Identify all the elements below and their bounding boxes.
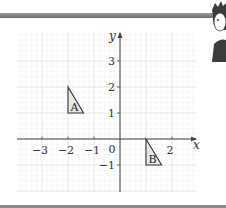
y-tick-label: −1 <box>99 159 115 172</box>
footer-bar <box>0 205 226 208</box>
y-tick-label: 2 <box>108 81 115 94</box>
svg-text:x: x <box>193 138 200 152</box>
y-tick-label: 3 <box>108 55 115 68</box>
triangle-label: B <box>148 153 156 166</box>
x-tick-label: −2 <box>58 144 74 157</box>
x-tick-label: 2 <box>167 144 174 157</box>
coordinate-grid: AB −3−2−12321−10xy <box>0 0 226 208</box>
y-tick-label: 1 <box>108 107 115 120</box>
x-tick-label: −3 <box>32 144 48 157</box>
svg-text:0: 0 <box>109 143 116 156</box>
triangle-label: A <box>70 101 80 114</box>
svg-text:y: y <box>108 29 116 43</box>
x-tick-label: −1 <box>84 144 100 157</box>
